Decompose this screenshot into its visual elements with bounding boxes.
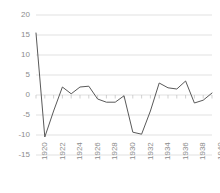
y-axis-tick-label: -10 (10, 130, 30, 139)
data-line-series-1 (36, 33, 212, 137)
y-axis-tick-label: 0 (10, 90, 30, 99)
line-chart: 20151050-5-10-15 19201922192419261928193… (0, 0, 220, 193)
y-axis-tick-label: 15 (10, 30, 30, 39)
x-axis-tick-label: 1940 (216, 142, 220, 160)
y-axis-tick-label: 20 (10, 10, 30, 19)
y-axis-tick-label: -15 (10, 150, 30, 159)
chart-plot-area (0, 0, 220, 193)
x-axis-tick-label: 1936 (181, 142, 190, 160)
x-axis-tick-label: 1934 (163, 142, 172, 160)
x-axis-tick-label: 1930 (128, 142, 137, 160)
gridlines (36, 15, 212, 155)
x-axis-tick-label: 1920 (40, 142, 49, 160)
x-axis-tick-label: 1932 (146, 142, 155, 160)
x-axis-tick-label: 1926 (93, 142, 102, 160)
x-axis-tick-label: 1922 (58, 142, 67, 160)
x-axis-tick-label: 1938 (198, 142, 207, 160)
y-axis-tick-label: 5 (10, 70, 30, 79)
x-axis-tick-label: 1924 (75, 142, 84, 160)
y-axis-tick-label: -5 (10, 110, 30, 119)
y-axis-tick-label: 10 (10, 50, 30, 59)
x-axis-tick-label: 1928 (110, 142, 119, 160)
